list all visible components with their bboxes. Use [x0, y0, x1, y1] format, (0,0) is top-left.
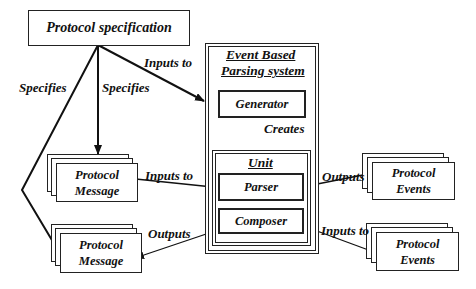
- edge-label-events-inputs-to: Inputs to: [321, 223, 369, 238]
- unit-label: Unit: [248, 155, 273, 170]
- protocol-events-input-line1: Protocol: [396, 236, 440, 252]
- protocol-events-input-line2: Events: [396, 252, 440, 268]
- system-title-line2: Parsing system: [221, 63, 305, 78]
- edge-label-msg-inputs-to: Inputs to: [145, 168, 193, 183]
- protocol-specification-label: Protocol specification: [46, 20, 172, 36]
- protocol-specification-node: Protocol specification: [28, 10, 190, 46]
- protocol-message-input-line2: Message: [75, 183, 119, 199]
- protocol-message-input-line1: Protocol: [75, 167, 119, 183]
- parser-node: Parser: [218, 173, 304, 201]
- protocol-events-output-line1: Protocol: [392, 165, 436, 181]
- composer-label: Composer: [235, 214, 287, 229]
- generator-label: Generator: [236, 97, 289, 112]
- edge-label-composer-outputs: Outputs: [148, 226, 191, 241]
- composer-node: Composer: [218, 208, 304, 234]
- edge-label-creates: Creates: [264, 121, 304, 136]
- edge-label-specifies-right: Specifies: [102, 80, 150, 95]
- generator-node: Generator: [218, 90, 306, 118]
- protocol-message-output-line1: Protocol: [79, 237, 123, 253]
- system-title-line1: Event Based: [226, 47, 295, 62]
- parser-label: Parser: [244, 180, 278, 195]
- protocol-message-output-line2: Message: [79, 253, 123, 269]
- edge-label-spec-inputs-to: Inputs to: [144, 55, 192, 70]
- edge-label-specifies-left: Specifies: [19, 80, 67, 95]
- edge-label-parser-outputs: Outputs: [322, 169, 365, 184]
- diagram-canvas: Protocol specification Event Based Parsi…: [0, 0, 476, 289]
- protocol-events-output-line2: Events: [392, 181, 436, 197]
